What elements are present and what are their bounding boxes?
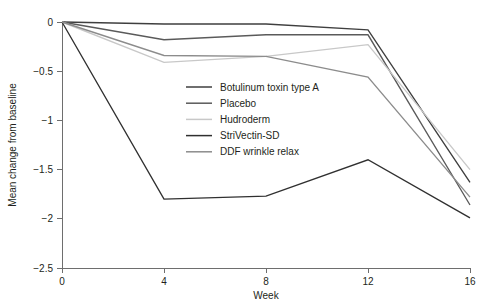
x-tick-label: 0 [59, 276, 65, 287]
legend-label-4: DDF wrinkle relax [220, 146, 299, 157]
legend-label-2: Hudroderm [220, 114, 270, 125]
chart-legend: Botulinum toxin type APlaceboHudrodermSt… [186, 82, 319, 158]
chart-canvas: 0−0.5−1−1.5−2−2.5 0481216 Week Mean chan… [0, 0, 488, 305]
x-axis-title: Week [253, 290, 279, 301]
y-tick-label: −2.5 [33, 263, 53, 274]
y-axis-title: Mean change from baseline [7, 83, 18, 207]
y-tick-label: −0.5 [33, 66, 53, 77]
y-tick-label: −2 [42, 213, 54, 224]
legend-label-1: Placebo [220, 98, 257, 109]
y-tick-label: −1.5 [33, 164, 53, 175]
y-tick-label: −1 [42, 115, 54, 126]
series-line-ddf-wrinkle-relax [62, 22, 470, 197]
x-tick-label: 4 [161, 276, 167, 287]
x-ticks-group: 0481216 [59, 268, 476, 287]
x-tick-label: 16 [464, 276, 476, 287]
x-tick-label: 8 [263, 276, 269, 287]
y-ticks-group: 0−0.5−1−1.5−2−2.5 [33, 17, 62, 274]
line-chart-figure: 0−0.5−1−1.5−2−2.5 0481216 Week Mean chan… [0, 0, 488, 305]
x-tick-label: 12 [362, 276, 374, 287]
axes-group [62, 22, 470, 268]
legend-label-0: Botulinum toxin type A [220, 82, 319, 93]
y-tick-label: 0 [47, 17, 53, 28]
legend-label-3: StriVectin-SD [220, 130, 279, 141]
